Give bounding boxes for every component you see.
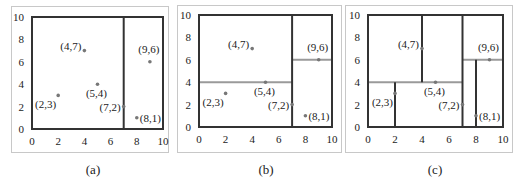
data-point <box>393 92 397 96</box>
point-label: (4,7) <box>398 38 419 51</box>
point-label: (2,3) <box>372 96 393 109</box>
y-tick-label: 8 <box>355 31 361 43</box>
point-label: (8,1) <box>479 110 500 123</box>
data-point <box>461 103 465 107</box>
panel-c-plot: 02468101086420(2,3)(4,7)(5,4)(7,2)(8,1)(… <box>0 0 520 188</box>
x-tick-label: 4 <box>419 133 425 145</box>
data-point <box>474 114 478 118</box>
point-label: (5,4) <box>424 85 445 98</box>
point-label: (7,2) <box>438 99 459 112</box>
y-tick-label: 10 <box>349 9 361 21</box>
x-tick-label: 6 <box>446 133 452 145</box>
y-tick-label: 2 <box>355 99 361 111</box>
panel-c-caption: (c) <box>415 162 455 178</box>
y-tick-label: 4 <box>355 76 361 88</box>
data-point <box>488 58 492 62</box>
x-tick-label: 0 <box>365 133 371 145</box>
x-tick-label: 8 <box>473 133 479 145</box>
x-tick-label: 2 <box>392 133 398 145</box>
y-tick-label: 6 <box>355 54 361 66</box>
data-point <box>420 47 424 51</box>
y-tick-label: 0 <box>355 121 361 133</box>
point-label: (9,6) <box>478 41 499 54</box>
x-tick-label: 10 <box>498 133 510 145</box>
data-point <box>434 80 438 84</box>
